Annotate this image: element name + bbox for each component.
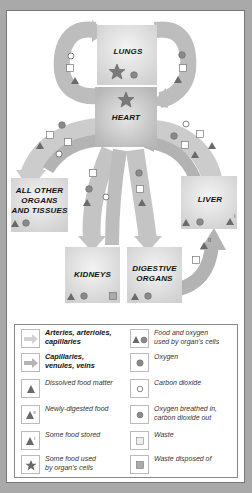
waste-icon	[193, 257, 200, 264]
waste-icon	[67, 65, 74, 72]
co2-icon	[56, 151, 62, 157]
legend-veins: Capillaries, venules, veins	[21, 353, 95, 372]
legend-food-oxygen-line2: used by organ's cells	[154, 338, 219, 347]
artery-arrow-icon	[24, 334, 38, 344]
liver-label: LIVER	[182, 195, 238, 205]
other-organs-label-line2: ORGANS	[11, 196, 68, 206]
legend-food-stored-label: Some food stored	[45, 431, 100, 440]
dot-icon	[135, 358, 145, 368]
legend-co2: Carbon dioxide	[130, 379, 201, 398]
filled-square-icon	[135, 460, 145, 470]
waste-icon	[90, 170, 97, 177]
legend-breathed-line2: carbon dioxide out	[154, 414, 217, 423]
waste-icon	[197, 131, 204, 138]
waste-icon	[65, 139, 72, 146]
legend-food-oxygen-used: Food and oxygen used by organ's cells	[130, 329, 219, 348]
other-organs-label: ALL OTHER ORGANS AND TISSUES	[11, 186, 68, 216]
star-icon	[25, 459, 37, 471]
co2-icon	[68, 53, 74, 59]
triangle-ii-icon: II	[25, 410, 37, 420]
open-circle-icon	[135, 384, 145, 394]
triangle-icon	[26, 384, 36, 394]
legend-waste-label: Waste	[154, 431, 174, 440]
dot-icon	[135, 410, 145, 420]
food-icon	[208, 142, 216, 149]
legend-oxygen-label: Oxygen	[154, 353, 178, 362]
waste-icon	[47, 132, 54, 139]
oxygen-dot-icon	[131, 72, 138, 79]
oxygen-dot-icon	[179, 52, 186, 59]
waste-icon	[182, 142, 189, 149]
oxygen-dot-icon	[81, 293, 88, 300]
legend-waste-disposed-label: Waste disposed of	[154, 455, 211, 464]
legend-arteries: Arteries, arterioles, capillaries	[21, 329, 112, 348]
waste-icon	[180, 65, 187, 72]
digestive-label: DIGESTIVE ORGANS	[127, 264, 182, 284]
legend-dissolved-food-label: Dissolved food matter	[45, 379, 113, 388]
legend-co2-label: Carbon dioxide	[154, 379, 201, 388]
oxygen-dot-icon	[23, 220, 30, 227]
legend-food-used: Some food used by organ's cells	[21, 455, 96, 474]
other-organs-label-line3: AND TISSUES	[11, 206, 68, 216]
legend-food-used-line2: by organ's cells	[45, 464, 96, 473]
co2-icon	[103, 194, 109, 200]
svg-text:I: I	[34, 436, 35, 441]
vein-arrow-icon	[24, 358, 38, 368]
co2-icon	[183, 121, 189, 127]
waste-disposed-icon	[110, 293, 117, 300]
oxygen-dot-icon	[145, 293, 152, 300]
legend-arteries-line2: capillaries	[45, 338, 112, 347]
portal-arrow-digestive-to-liver	[175, 228, 226, 290]
svg-text:I: I	[234, 213, 235, 219]
legend-food-stored: I Some food stored	[21, 431, 100, 450]
other-organs-label-line1: ALL OTHER	[11, 186, 68, 196]
heart-label: HEART	[96, 113, 156, 123]
legend-food-oxygen-line1: Food and oxygen	[154, 329, 219, 338]
legend-waste-disposed: Waste disposed of	[130, 455, 211, 474]
legend: Arteries, arterioles, capillaries Capill…	[14, 324, 238, 478]
digestive-label-line2: ORGANS	[127, 274, 182, 284]
digestive-label-line1: DIGESTIVE	[127, 264, 182, 274]
legend-breathed-line1: Oxygen breathed in,	[154, 405, 217, 414]
svg-text:II: II	[33, 410, 35, 415]
oxygen-dot-icon	[86, 186, 93, 193]
arteries-swatch	[21, 329, 40, 348]
lungs-label: LUNGS	[100, 47, 156, 57]
legend-newly-digested: II Newly-digested food	[21, 405, 108, 424]
oxygen-dot-icon	[59, 122, 66, 129]
oxygen-dot-icon	[136, 170, 143, 177]
square-icon	[135, 436, 145, 446]
oxygen-dot-icon	[171, 133, 178, 140]
triangle-i-icon: I	[25, 436, 37, 446]
artery-arrow-to-digestive	[134, 150, 162, 252]
legend-breathed: Oxygen breathed in, carbon dioxide out	[130, 405, 217, 424]
legend-newly-digested-label: Newly-digested food	[45, 405, 108, 414]
legend-veins-line2: venules, veins	[45, 362, 95, 371]
legend-food-used-line1: Some food used	[45, 455, 96, 464]
oxygen-dot-icon	[197, 219, 204, 226]
legend-dissolved-food: Dissolved food matter	[21, 379, 113, 398]
legend-waste: Waste	[130, 431, 174, 450]
veins-swatch	[21, 353, 40, 372]
svg-text:II: II	[208, 237, 211, 243]
waste-icon	[137, 186, 144, 193]
kidneys-label: KIDNEYS	[65, 270, 120, 280]
legend-oxygen: Oxygen	[130, 353, 178, 372]
triangle-dot-icon	[132, 334, 148, 344]
vein-arrow-from-kidneys	[112, 150, 120, 245]
